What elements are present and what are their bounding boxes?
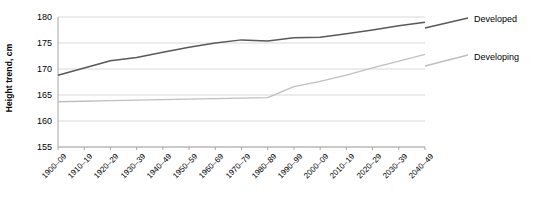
legend-swatch-developing — [425, 55, 468, 66]
gridlines — [58, 17, 425, 147]
plot-area — [0, 0, 540, 203]
series-line-developed — [58, 22, 425, 75]
legend-label-developing: Developing — [474, 52, 519, 62]
legend-swatch-developed — [425, 18, 468, 28]
height-trend-chart: Height trend, cm 180 175 170 165 160 155… — [0, 0, 540, 203]
legend-label-developed: Developed — [474, 14, 517, 24]
